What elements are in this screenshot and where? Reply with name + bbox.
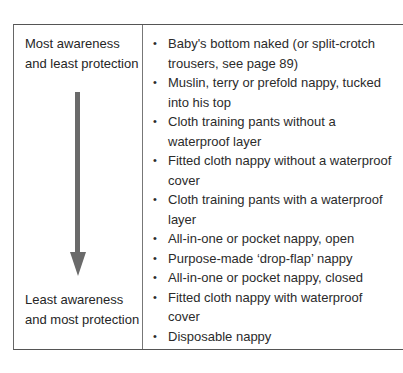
bullet-icon: • <box>153 34 157 54</box>
list-item: •Muslin, terry or prefold nappy, tucked … <box>145 73 395 112</box>
arrow-down-icon <box>70 92 86 279</box>
nappy-options-list: •Baby's bottom naked (or split-crotch tr… <box>145 34 395 346</box>
bullet-icon: • <box>153 151 157 171</box>
list-item: •Fitted cloth nappy with waterproof cove… <box>145 288 395 327</box>
bullet-icon: • <box>153 327 157 347</box>
most-awareness-label: Most awareness and least protection <box>25 34 140 73</box>
list-item-text: Fitted cloth nappy with waterproof cover <box>168 290 362 325</box>
list-item-text: Purpose-made ‘drop-flap’ nappy <box>168 251 353 266</box>
column-divider <box>142 25 143 349</box>
bullet-icon: • <box>153 190 157 210</box>
list-item-text: Disposable nappy <box>168 329 271 344</box>
arrow-shaft <box>75 92 80 260</box>
list-item: •Cloth training pants without a waterpro… <box>145 112 395 151</box>
list-item: •Baby's bottom naked (or split-crotch tr… <box>145 34 395 73</box>
list-item: •All-in-one or pocket nappy, closed <box>145 268 395 288</box>
bullet-icon: • <box>153 73 157 93</box>
list-item-text: Muslin, terry or prefold nappy, tucked i… <box>168 75 381 110</box>
list-item-text: All-in-one or pocket nappy, open <box>168 231 354 246</box>
bullet-icon: • <box>153 112 157 132</box>
list-item-text: Baby's bottom naked (or split-crotch tro… <box>168 36 375 71</box>
list-item: •Cloth training pants with a waterproof … <box>145 190 395 229</box>
bullet-icon: • <box>153 288 157 308</box>
list-item-text: Fitted cloth nappy without a waterproof … <box>168 153 391 188</box>
list-item: •Disposable nappy <box>145 327 395 347</box>
list-item-text: All-in-one or pocket nappy, closed <box>168 270 363 285</box>
arrow-head <box>70 252 86 276</box>
list-item-text: Cloth training pants without a waterproo… <box>168 114 336 149</box>
bullet-icon: • <box>153 268 157 288</box>
list-item-text: Cloth training pants with a waterproof l… <box>168 192 383 227</box>
list-item: •All-in-one or pocket nappy, open <box>145 229 395 249</box>
bullet-icon: • <box>153 249 157 269</box>
least-awareness-label: Least awareness and most protection <box>25 290 140 329</box>
list-item: •Purpose-made ‘drop-flap’ nappy <box>145 249 395 269</box>
awareness-protection-table: Most awareness and least protection Leas… <box>13 24 403 350</box>
list-item: •Fitted cloth nappy without a waterproof… <box>145 151 395 190</box>
bullet-icon: • <box>153 229 157 249</box>
